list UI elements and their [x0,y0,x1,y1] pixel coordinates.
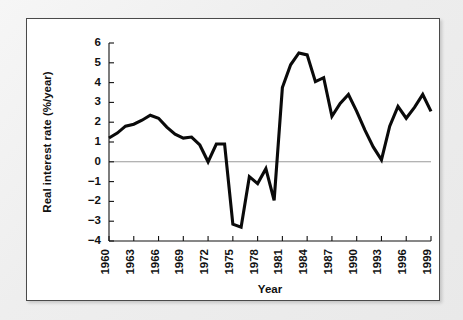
x-tick-label: 1960 [99,249,111,275]
x-tick-label: 1987 [322,249,334,275]
x-tick-label: 1978 [248,248,260,274]
plot-area: 6543210−1−2−3−4 196019631966196919721975… [27,19,439,300]
x-tick-label: 1993 [371,249,383,275]
x-axis-title: Year [258,283,283,295]
y-tick-label: 4 [95,76,102,88]
x-tick-label: 1975 [223,248,235,274]
y-tick-label: −2 [88,194,101,206]
x-axis-tick-labels: 1960196319661969197219751978198119841987… [99,248,433,274]
y-tick-label: 0 [95,155,101,167]
y-tick-label: −1 [88,175,102,187]
figure-frame: 6543210−1−2−3−4 196019631966196919721975… [26,18,440,301]
y-axis-title: Real interest rate (%/year) [41,71,53,212]
scanned-page: 6543210−1−2−3−4 196019631966196919721975… [0,0,463,320]
x-tick-label: 1966 [149,249,161,275]
y-tick-label: 5 [95,56,102,68]
y-tick-label: 1 [95,135,102,147]
data-series-line [109,53,431,227]
x-tick-label: 1969 [173,249,185,275]
x-tick-label: 1984 [297,248,309,274]
y-axis [109,43,114,241]
x-tick-label: 1963 [124,249,136,275]
y-axis-tick-labels: 6543210−1−2−3−4 [88,36,102,246]
y-tick-label: 2 [95,115,101,127]
y-tick-label: 3 [95,95,101,107]
y-tick-label: −3 [88,214,101,226]
x-tick-label: 1981 [272,248,284,274]
real-interest-rate-line-chart: 6543210−1−2−3−4 196019631966196919721975… [27,19,441,302]
x-tick-label: 1999 [421,249,433,275]
x-tick-label: 1996 [396,249,408,275]
y-tick-label: −4 [88,234,102,246]
x-tick-label: 1990 [347,249,359,275]
series-real-interest-rate [109,53,431,227]
x-tick-label: 1972 [198,249,210,275]
x-axis [109,236,431,241]
y-tick-label: 6 [95,36,101,48]
